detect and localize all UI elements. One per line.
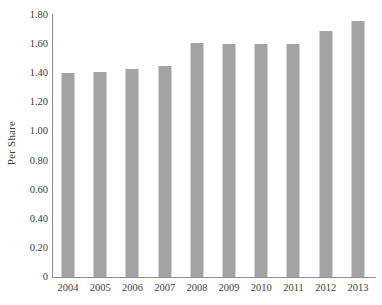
y-axis-tick-1-60: 1.60 — [0, 39, 48, 49]
y-axis-tick-0-20: 0.20 — [0, 243, 48, 253]
bar-chart: Per Share 1.801.601.401.201.000.800.600.… — [0, 0, 382, 305]
y-axis-tick-0-60: 0.60 — [0, 185, 48, 195]
y-axis-tick-0: 0 — [0, 272, 48, 282]
y-axis-tick-1-80: 1.80 — [0, 10, 48, 20]
y-axis-tick-1-00: 1.00 — [0, 126, 48, 136]
x-axis-tick-2013: 2013 — [338, 282, 378, 294]
y-axis-tick-labels: 1.801.601.401.201.000.800.600.400.200 — [0, 0, 48, 305]
y-axis-tick-1-40: 1.40 — [0, 68, 48, 78]
y-axis-tick-0-40: 0.40 — [0, 214, 48, 224]
y-axis-tick-1-20: 1.20 — [0, 97, 48, 107]
x-axis-tick-labels: 2004200520062007200820092010201120122013 — [52, 0, 374, 305]
y-axis-tick-0-80: 0.80 — [0, 156, 48, 166]
